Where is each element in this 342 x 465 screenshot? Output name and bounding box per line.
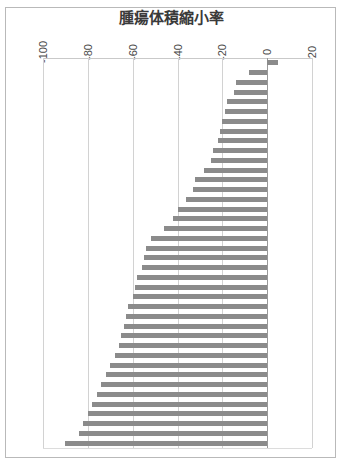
- bar: [133, 294, 268, 299]
- gridline-neg40: [178, 58, 179, 448]
- bar: [128, 304, 267, 309]
- bar: [135, 285, 267, 290]
- x-tick-label-neg100: -100: [25, 22, 61, 58]
- bar: [204, 168, 267, 173]
- bar: [151, 236, 268, 241]
- bar: [267, 60, 278, 65]
- bar: [101, 382, 267, 387]
- x-axis-tick-labels: -100-80-60-40-20020: [0, 22, 342, 58]
- bar: [83, 421, 267, 426]
- bar: [106, 372, 267, 377]
- bar: [124, 324, 267, 329]
- bar: [126, 314, 267, 319]
- bar: [97, 392, 267, 397]
- x-tick-label-neg60: -60: [115, 22, 151, 58]
- x-tick-label-20: 20: [294, 22, 330, 58]
- plot-bottom-rule: [43, 448, 312, 449]
- bar: [218, 138, 267, 143]
- bar: [193, 187, 267, 192]
- bar: [213, 148, 267, 153]
- x-tick-label-text: 20: [306, 46, 318, 58]
- x-tick-label-0: 0: [249, 22, 285, 58]
- bar: [195, 177, 267, 182]
- x-tick-label-neg20: -20: [204, 22, 240, 58]
- x-tick-label-neg80: -80: [70, 22, 106, 58]
- gridline-neg20: [222, 58, 223, 448]
- bar: [164, 226, 267, 231]
- bar: [236, 80, 267, 85]
- gridline-20: [312, 58, 313, 448]
- bar: [227, 99, 267, 104]
- bar: [88, 411, 267, 416]
- plot-area: [43, 58, 312, 448]
- bar: [65, 441, 267, 446]
- gridline-neg100: [43, 58, 44, 448]
- bar: [79, 431, 267, 436]
- bar: [115, 353, 267, 358]
- bar: [146, 246, 267, 251]
- bar: [225, 109, 268, 114]
- bar: [220, 129, 267, 134]
- bar: [234, 90, 268, 95]
- bar: [173, 216, 267, 221]
- x-tick-label-neg40: -40: [160, 22, 196, 58]
- bar: [222, 119, 267, 124]
- bar: [211, 158, 267, 163]
- bar: [249, 70, 267, 75]
- gridline-neg60: [133, 58, 134, 448]
- bar: [121, 333, 267, 338]
- bar: [144, 255, 267, 260]
- bar: [92, 402, 267, 407]
- bar: [110, 363, 267, 368]
- x-tick-label-text: 0: [261, 49, 273, 55]
- bar: [186, 197, 267, 202]
- zero-line: [267, 58, 268, 448]
- bar: [178, 207, 268, 212]
- bar: [142, 265, 268, 270]
- bar: [119, 343, 267, 348]
- bar: [137, 275, 267, 280]
- waterfall-chart-figure: 腫瘍体積縮小率 -100-80-60-40-20020: [0, 0, 342, 465]
- gridline-neg80: [88, 58, 89, 448]
